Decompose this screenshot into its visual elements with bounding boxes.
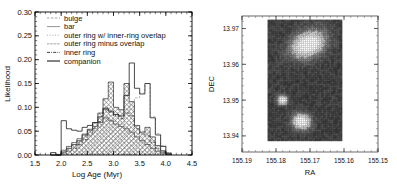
x-tick-label: 1.5: [30, 159, 40, 168]
ra-axis-label: RA: [305, 168, 315, 177]
ra-tick-label: 155.15: [368, 157, 388, 164]
figure-root: 1.52.02.53.03.54.04.50.000.050.100.150.2…: [0, 0, 397, 189]
histogram-series-group: [51, 63, 171, 155]
y-tick-label: 0.25: [17, 31, 32, 40]
likelihood-histogram-panel: 1.52.02.53.03.54.04.50.000.050.100.150.2…: [0, 0, 200, 189]
x-tick-label: 3.0: [108, 159, 118, 168]
dec-tick-label: 13.97: [223, 25, 240, 32]
ra-tick-label: 155.16: [334, 157, 354, 164]
ra-tick-label: 155.17: [300, 157, 320, 164]
y-tick-label: 0.00: [17, 151, 32, 160]
x-tick-label: 4.5: [187, 159, 197, 168]
sky-image-raster: [268, 20, 344, 142]
legend-label: companion: [64, 57, 101, 66]
y-tick-label: 0.20: [17, 55, 32, 64]
x-tick-label: 2.0: [56, 159, 66, 168]
ra-tick-label: 155.19: [232, 157, 252, 164]
histogram-plot: 1.52.02.53.03.54.04.50.000.050.100.150.2…: [0, 0, 200, 189]
legend: bulgebarouter ring w/ inner-ring overlap…: [47, 14, 166, 66]
dec-axis-label: DEC: [207, 76, 216, 92]
dec-tick-label: 13.95: [223, 97, 240, 104]
y-tick-label: 0.10: [17, 103, 32, 112]
dec-tick-label: 13.94: [223, 132, 240, 139]
sky-image-panel: 155.19155.18155.17155.16155.1513.9413.95…: [200, 0, 397, 189]
x-tick-label: 3.5: [134, 159, 144, 168]
x-tick-label: 2.5: [82, 159, 92, 168]
x-axis-label: Log Age (Myr): [72, 170, 123, 179]
y-tick-label: 0.30: [17, 8, 32, 17]
sky-image-plot: 155.19155.18155.17155.16155.1513.9413.95…: [200, 0, 397, 189]
y-tick-label: 0.15: [17, 79, 32, 88]
dec-tick-label: 13.96: [223, 61, 240, 68]
ra-tick-label: 155.18: [266, 157, 286, 164]
y-axis-label: Likelihood: [3, 66, 12, 102]
y-tick-label: 0.05: [17, 127, 32, 136]
histogram-series-companion: [51, 82, 171, 155]
x-tick-label: 4.0: [161, 159, 171, 168]
